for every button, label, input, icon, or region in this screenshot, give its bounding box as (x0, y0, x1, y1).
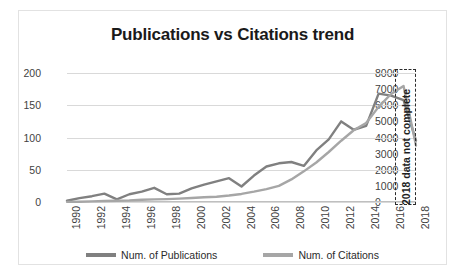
plot-area (67, 73, 416, 202)
chart-container: Publications vs Citations trend 05010015… (18, 10, 447, 265)
x-tick-1996: 1996 (146, 206, 157, 229)
legend-item-citations[interactable]: Num. of Citations (263, 249, 379, 261)
x-tick-2006: 2006 (270, 206, 281, 229)
legend-label: Num. of Publications (121, 249, 217, 261)
y-tick-left: 0 (1, 197, 41, 208)
series-lines (67, 73, 416, 202)
y-tick-left: 50 (1, 165, 41, 176)
chart-title: Publications vs Citations trend (19, 25, 446, 45)
line-citations (67, 86, 416, 202)
x-tick-2010: 2010 (320, 206, 331, 229)
annotation-label: 2018 data not complete (397, 69, 415, 205)
legend-swatch-icon (263, 253, 293, 256)
x-tick-1990: 1990 (71, 206, 82, 229)
legend-label: Num. of Citations (298, 249, 379, 261)
y-tick-left: 200 (1, 68, 41, 79)
x-tick-2000: 2000 (196, 206, 207, 229)
legend-item-publications[interactable]: Num. of Publications (86, 249, 217, 261)
line-publications (67, 94, 416, 201)
y-tick-left: 150 (1, 100, 41, 111)
x-tick-2016: 2016 (395, 206, 406, 229)
x-tick-2008: 2008 (295, 206, 306, 229)
x-tick-2014: 2014 (370, 206, 381, 229)
legend-swatch-icon (86, 253, 116, 256)
y-tick-left: 100 (1, 133, 41, 144)
x-tick-1998: 1998 (171, 206, 182, 229)
x-tick-1992: 1992 (96, 206, 107, 229)
x-tick-2012: 2012 (345, 206, 356, 229)
x-tick-2002: 2002 (221, 206, 232, 229)
x-tick-2004: 2004 (246, 206, 257, 229)
x-tick-2018: 2018 (420, 206, 431, 229)
gridline (67, 202, 416, 203)
x-tick-1994: 1994 (121, 206, 132, 229)
chart-legend: Num. of PublicationsNum. of Citations (19, 249, 446, 261)
